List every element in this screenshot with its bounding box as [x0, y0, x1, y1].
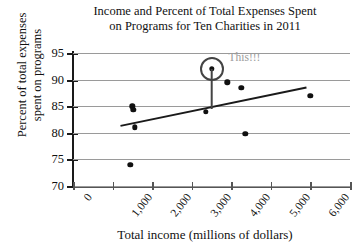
x-axis-tick-label: 4,000: [247, 191, 272, 219]
x-axis-tick: [231, 182, 233, 190]
y-axis-tick-label: 85: [24, 100, 64, 112]
y-axis-labels: 707580859095: [18, 0, 64, 249]
x-axis-tick-label: 1,000: [129, 191, 154, 219]
y-axis-tick-label: 90: [24, 74, 64, 86]
x-axis-title: Total income (millions of dollars): [60, 227, 350, 243]
x-axis-tick-label: 3,000: [208, 191, 233, 219]
y-axis-tick-label: 75: [24, 153, 64, 165]
highlight-ring-icon: [200, 57, 224, 81]
x-axis-tick: [113, 182, 115, 190]
plot-area: This!!!: [73, 53, 350, 186]
chart-title-line-1: Income and Percent of Total Expenses Spe…: [60, 4, 350, 19]
x-axis-tick: [152, 182, 154, 190]
gridline: [73, 186, 350, 187]
y-axis-tick-label: 95: [24, 47, 64, 59]
x-axis-tick: [350, 182, 352, 190]
x-axis-tick: [310, 182, 312, 190]
x-axis-tick: [73, 182, 75, 190]
x-axis-tick: [192, 182, 194, 190]
x-axis-tick-label: 6,000: [326, 191, 351, 219]
chart-title: Income and Percent of Total Expenses Spe…: [60, 4, 350, 34]
y-axis-tick-label: 80: [24, 127, 64, 139]
x-axis-tick-label: 2,000: [168, 191, 193, 219]
x-axis-tick-label: 5,000: [287, 191, 312, 219]
scatter-chart: Income and Percent of Total Expenses Spe…: [0, 0, 354, 249]
x-axis-tick: [271, 182, 273, 190]
y-axis-tick-label: 70: [24, 180, 64, 192]
highlight-annotation: This!!!: [229, 51, 261, 63]
x-axis-tick-label: 0: [81, 191, 94, 203]
chart-title-line-2: on Programs for Ten Charities in 2011: [60, 19, 350, 34]
